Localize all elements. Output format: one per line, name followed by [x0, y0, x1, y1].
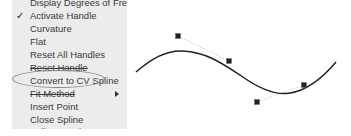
spline-canvas[interactable] — [0, 0, 351, 136]
handle-point[interactable] — [176, 34, 181, 39]
handle-point[interactable] — [227, 59, 232, 64]
handle-lines — [178, 36, 304, 102]
handle-point[interactable] — [255, 100, 260, 105]
handle-point[interactable] — [302, 83, 307, 88]
